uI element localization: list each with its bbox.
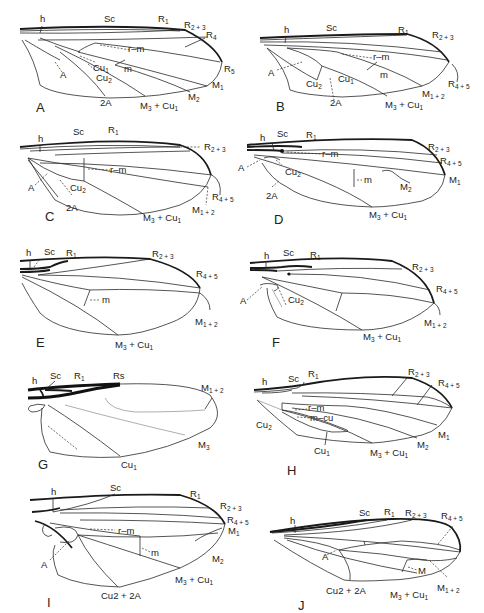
vein-label-r4-5: R4 + 5 xyxy=(440,156,462,168)
vein-label-m: M xyxy=(418,566,426,576)
wing-panel-g: h Sc R1 Rs M1 + 2 M3 Cu1 G xyxy=(0,360,242,480)
vein-label-r4-5: R4 + 5 xyxy=(196,269,218,281)
panel-letter-j: J xyxy=(298,598,305,613)
vein-label-r1: R1 xyxy=(66,248,77,260)
vein-label-r1: R1 xyxy=(108,125,119,137)
panel-letter-f: F xyxy=(272,335,280,350)
vein-label-m2: M2 xyxy=(188,92,200,104)
vein-label-cu1: Cu1 xyxy=(314,446,330,458)
vein-label-m-cu: m–cu xyxy=(310,413,333,423)
vein-label-r2-3: R2 + 3 xyxy=(412,262,434,274)
vein-label-cu2-2a: Cu2 + 2A xyxy=(101,591,141,601)
vein-label-h: h xyxy=(262,377,267,387)
vein-label-cu2: Cu2 xyxy=(256,420,272,432)
vein-label-m: m xyxy=(102,295,110,305)
vein-label-sc: Sc xyxy=(73,127,84,137)
vein-label-sc: Sc xyxy=(283,248,294,258)
vein-label-r2-3: R2 + 3 xyxy=(432,30,454,42)
vein-label-m: m xyxy=(124,64,132,74)
vein-label-m3-cu1: M3 + Cu1 xyxy=(390,590,428,602)
vein-label-sc: Sc xyxy=(50,371,61,381)
vein-label-h: h xyxy=(38,134,43,144)
panel-letter-c: C xyxy=(45,209,54,224)
vein-label-sc: Sc xyxy=(288,374,299,384)
vein-label-h: h xyxy=(264,251,269,261)
vein-label-r4: R4 xyxy=(206,30,217,42)
vein-label-m1-2: M1 + 2 xyxy=(424,318,447,330)
vein-label-cu1: Cu1 xyxy=(121,460,137,472)
vein-label-h: h xyxy=(32,376,37,386)
vein-label-r4-5: R4 + 5 xyxy=(438,378,460,390)
vein-label-m2: M2 xyxy=(400,182,412,194)
vein-label-a: A xyxy=(268,68,274,78)
panel-letter-a: A xyxy=(36,100,45,115)
vein-label-r4-5: R4 + 5 xyxy=(212,192,234,204)
wing-panel-b: h Sc R1 R2 + 3 r–m A m Cu2 Cu1 R4 + 5 M1… xyxy=(242,0,484,120)
vein-label-m1-2: M1 + 2 xyxy=(201,383,224,395)
wing-panel-f: h Sc R1 R2 + 3 R4 + 5 A Cu2 M1 + 2 M3 + … xyxy=(242,245,484,365)
vein-label-sc: Sc xyxy=(44,247,55,257)
vein-label-h: h xyxy=(26,248,31,258)
vein-label-m1-2: M1 + 2 xyxy=(192,205,215,217)
vein-label-a: A xyxy=(41,560,47,570)
vein-label-r2-3: R2 + 3 xyxy=(204,142,226,154)
vein-label-m3-cu1: M3 + Cu1 xyxy=(370,448,408,460)
vein-label-r4-5: R4 + 5 xyxy=(441,511,463,523)
wing-panel-h: h Sc R1 R2 + 3 R4 + 5 r–m m–cu Cu2 M1 M2… xyxy=(242,360,484,480)
vein-label-m3-cu1: M3 + Cu1 xyxy=(369,210,407,222)
vein-label-cu2-2a: Cu2 + 2A xyxy=(326,586,366,596)
vein-label-sc: Sc xyxy=(110,483,121,493)
vein-label-cu2: Cu2 xyxy=(70,183,86,195)
vein-label-r5: R5 xyxy=(224,64,235,76)
vein-label-sc: Sc xyxy=(277,129,288,139)
vein-label-2a: 2A xyxy=(266,191,278,201)
vein-label-r2-3: R2 + 3 xyxy=(428,142,450,154)
vein-label-m3-cu1: M3 + Cu1 xyxy=(363,332,401,344)
vein-label-r1: R1 xyxy=(74,371,85,383)
vein-label-2a: 2A xyxy=(66,203,78,213)
vein-label-m1: M1 xyxy=(438,430,450,442)
vein-label-m2: M2 xyxy=(212,554,224,566)
vein-label-sc: Sc xyxy=(359,508,370,518)
vein-label-a: A xyxy=(322,552,328,562)
vein-label-r2-3: R2 + 3 xyxy=(152,249,174,261)
vein-label-m1: M1 xyxy=(228,526,240,538)
vein-label-cu2: Cu2 xyxy=(96,73,112,85)
vein-label-r1: R1 xyxy=(306,130,317,142)
vein-label-r2-3: R2 + 3 xyxy=(405,508,427,520)
wing-panel-a: h Sc R1 R2 + 3 R4 R5 r–m Cu1 Cu2 m A 2A … xyxy=(0,0,242,120)
panel-letter-h: H xyxy=(287,463,296,478)
vein-label-h: h xyxy=(260,133,265,143)
vein-label-r1: R1 xyxy=(190,489,201,501)
vein-label-r1: R1 xyxy=(158,14,169,26)
vein-label-r-m: r–m xyxy=(118,526,134,536)
vein-label-cu2: Cu2 xyxy=(306,79,322,91)
vein-label-m: m xyxy=(380,70,388,80)
panel-letter-d: D xyxy=(274,212,283,227)
vein-label-rs: Rs xyxy=(113,371,125,381)
panel-letter-b: B xyxy=(276,99,285,114)
vein-label-sc: Sc xyxy=(326,23,337,33)
vein-label-r1: R1 xyxy=(308,369,319,381)
vein-label-r-m: r–m xyxy=(128,44,144,54)
vein-label-r4-5: R4 + 5 xyxy=(436,284,458,296)
vein-label-a: A xyxy=(60,70,66,80)
vein-label-m1-2: M1 + 2 xyxy=(437,583,460,595)
vein-label-cu1: Cu1 xyxy=(338,74,354,86)
vein-label-a: A xyxy=(28,183,34,193)
vein-label-sc: Sc xyxy=(104,14,115,24)
vein-label-m3-cu1: M3 + Cu1 xyxy=(175,575,213,587)
vein-label-m2: M2 xyxy=(417,440,429,452)
vein-label-m3: M3 xyxy=(198,440,210,452)
panel-letter-i: I xyxy=(47,595,51,610)
vein-label-m3-cu1: M3 + Cu1 xyxy=(385,100,423,112)
vein-label-h: h xyxy=(284,25,289,35)
vein-label-m: m xyxy=(364,175,372,185)
vein-label-r-m: r–m xyxy=(373,52,389,62)
vein-label-m1-2: M1 + 2 xyxy=(422,89,445,101)
wing-panel-d: h Sc R1 R2 + 3 R4 + 5 r–m A Cu2 m M2 M1 … xyxy=(242,125,484,245)
vein-label-h: h xyxy=(51,487,56,497)
vein-label-m1: M1 xyxy=(212,80,224,92)
vein-label-m: m xyxy=(151,548,159,558)
vein-label-m3-cu1: M3 + Cu1 xyxy=(143,213,181,225)
